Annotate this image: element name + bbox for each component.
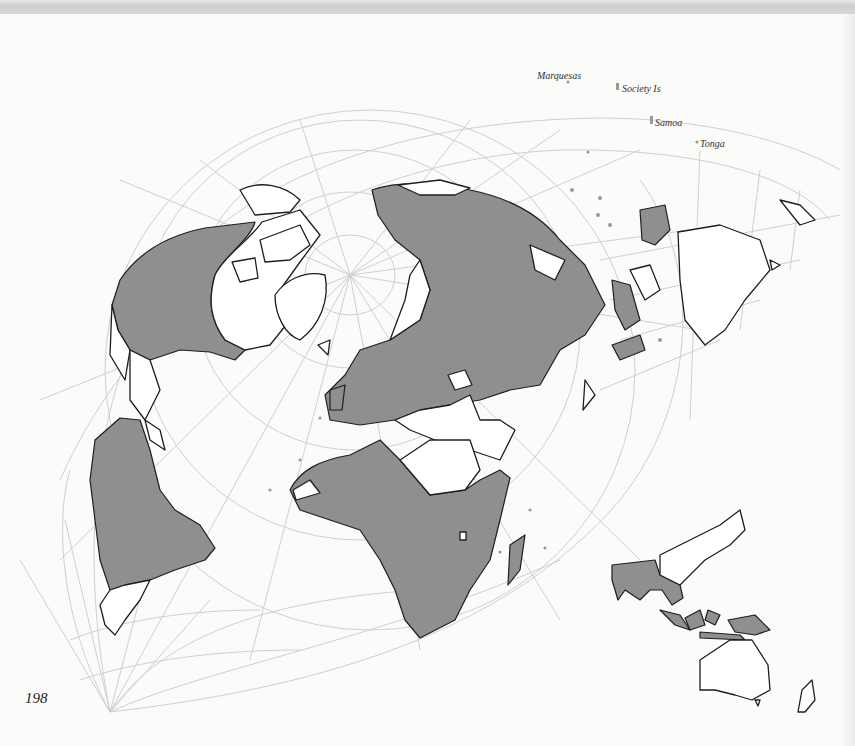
label-society-islands: Society Is — [622, 83, 661, 94]
page-number: 198 — [25, 690, 48, 707]
africa — [290, 440, 525, 638]
label-tonga: Tonga — [700, 138, 725, 149]
south-america — [90, 418, 215, 635]
southeast-asia — [612, 200, 815, 360]
inset-asia-pacific — [612, 510, 815, 712]
world-map — [0, 0, 855, 746]
eurasia — [318, 180, 605, 460]
label-marquesas: Marquesas — [537, 70, 581, 81]
label-samoa: Samoa — [655, 117, 682, 128]
